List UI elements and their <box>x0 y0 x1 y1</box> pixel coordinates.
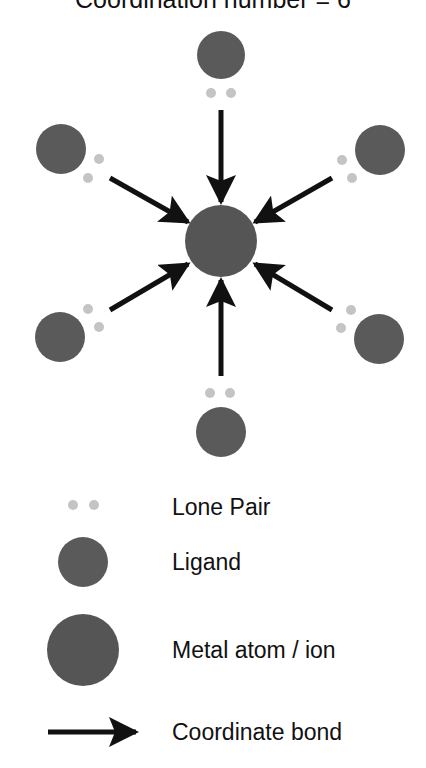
legend-ligand-icon <box>58 537 108 587</box>
coordinate-bond-arrow-upper-right-icon <box>255 178 332 222</box>
ligand-bottom-icon <box>196 407 246 457</box>
lone-pair-dot-icon <box>205 388 215 398</box>
lone-pair-dot-icon <box>94 154 104 164</box>
ligand-lower-right-icon <box>354 314 404 364</box>
legend-graphics <box>47 500 136 732</box>
lone-pair-dot-icon <box>337 155 347 165</box>
legend-lone-pair-dot-icon <box>68 500 78 510</box>
legend-lone-pair-dot-icon <box>89 500 99 510</box>
lone-pair-dot-icon <box>346 305 356 315</box>
lone-pair-dot-icon <box>225 388 235 398</box>
legend-label-metal: Metal atom / ion <box>172 639 336 662</box>
metal-ion-icon <box>185 205 257 277</box>
ligand-top-icon <box>197 31 245 79</box>
coordinate-bond-arrow-upper-left-icon <box>110 178 188 222</box>
legend-metal-icon <box>47 614 119 686</box>
coordinate-bond-arrow-lower-right-icon <box>255 264 332 310</box>
lone-pair-dot-icon <box>347 173 357 183</box>
ligand-upper-left-icon <box>36 124 86 174</box>
legend-label-bond: Coordinate bond <box>172 721 342 744</box>
lone-pair-dot-icon <box>226 88 236 98</box>
legend-label-ligand: Ligand <box>172 551 241 574</box>
lone-pair-dot-icon <box>83 304 93 314</box>
coordinate-bond-arrow-lower-left-icon <box>110 264 188 310</box>
legend-label-lone-pair: Lone Pair <box>172 496 270 519</box>
lone-pair-dot-icon <box>83 173 93 183</box>
ligand-upper-right-icon <box>355 125 405 175</box>
lone-pair-dot-icon <box>336 323 346 333</box>
lone-pair-dot-icon <box>94 322 104 332</box>
ligand-lower-left-icon <box>35 312 85 362</box>
lone-pair-dot-icon <box>206 88 216 98</box>
